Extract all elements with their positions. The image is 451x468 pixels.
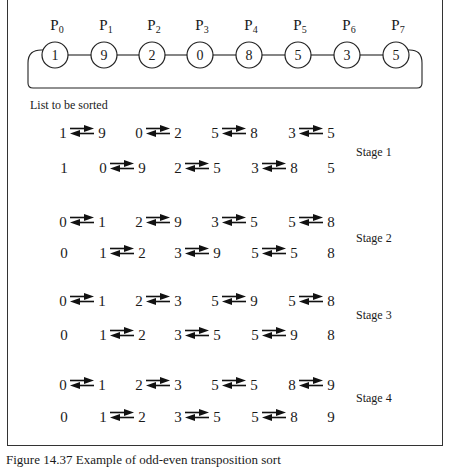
element-value: 2 (135, 377, 143, 394)
element-value: 5 (327, 160, 335, 177)
compare-exchange-arrows-icon (221, 212, 247, 230)
stage-label: Stage 4 (356, 391, 392, 406)
element-value: 9 (327, 409, 335, 426)
element-value: 2 (174, 125, 182, 142)
compare-exchange-arrows-icon (261, 325, 287, 343)
compare-exchange-arrows-icon (184, 325, 210, 343)
element-value: 8 (327, 327, 335, 344)
element-value: 8 (290, 409, 298, 426)
element-value: 2 (135, 214, 143, 231)
element-value: 5 (211, 125, 219, 142)
element-value: 5 (213, 409, 221, 426)
processor-label: P1 (99, 17, 112, 35)
element-value: 1 (98, 214, 106, 231)
compare-exchange-arrows-icon (261, 243, 287, 261)
processor-label: P0 (50, 17, 63, 35)
element-value: 3 (174, 409, 182, 426)
compare-exchange-arrows-icon (109, 243, 135, 261)
element-value: 1 (60, 160, 68, 177)
element-value: 3 (251, 160, 259, 177)
node-value: 5 (393, 48, 400, 63)
compare-exchange-arrows-icon (298, 375, 324, 393)
stage-label: Stage 3 (356, 308, 392, 323)
compare-exchange-arrows-icon (109, 407, 135, 425)
element-value: 3 (174, 293, 182, 310)
element-value: 2 (174, 160, 182, 177)
element-value: 1 (59, 125, 67, 142)
compare-exchange-arrows-icon (145, 212, 171, 230)
element-value: 1 (99, 327, 107, 344)
element-value: 1 (98, 377, 106, 394)
element-value: 9 (290, 327, 298, 344)
compare-exchange-arrows-icon (145, 123, 171, 141)
node-value: 9 (101, 48, 108, 63)
compare-exchange-arrows-icon (69, 375, 95, 393)
processor-label: P2 (147, 17, 160, 35)
node-value: 0 (197, 48, 204, 63)
element-value: 9 (250, 293, 258, 310)
element-value: 0 (59, 293, 67, 310)
node-value: 5 (295, 48, 302, 63)
compare-exchange-arrows-icon (221, 375, 247, 393)
compare-exchange-arrows-icon (298, 291, 324, 309)
element-value: 9 (138, 160, 146, 177)
element-value: 3 (174, 327, 182, 344)
element-value: 3 (211, 214, 219, 231)
element-value: 8 (327, 245, 335, 262)
node-value: 2 (149, 48, 156, 63)
element-value: 5 (251, 327, 259, 344)
element-value: 5 (211, 293, 219, 310)
element-value: 0 (135, 125, 143, 142)
ring-network-svg: 19208535 (0, 0, 451, 100)
element-value: 5 (251, 409, 259, 426)
element-value: 8 (327, 293, 335, 310)
list-caption: List to be sorted (30, 98, 108, 113)
compare-exchange-arrows-icon (184, 407, 210, 425)
element-value: 0 (60, 245, 68, 262)
element-value: 5 (288, 214, 296, 231)
element-value: 8 (250, 125, 258, 142)
compare-exchange-arrows-icon (69, 291, 95, 309)
element-value: 8 (290, 160, 298, 177)
compare-exchange-arrows-icon (261, 158, 287, 176)
element-value: 0 (59, 214, 67, 231)
element-value: 2 (138, 409, 146, 426)
element-value: 0 (60, 409, 68, 426)
element-value: 3 (288, 125, 296, 142)
stage-label: Stage 1 (356, 145, 392, 160)
element-value: 1 (98, 293, 106, 310)
compare-exchange-arrows-icon (221, 123, 247, 141)
figure-caption: Figure 14.37 Example of odd-even transpo… (6, 452, 281, 468)
compare-exchange-arrows-icon (298, 212, 324, 230)
compare-exchange-arrows-icon (261, 407, 287, 425)
compare-exchange-arrows-icon (69, 123, 95, 141)
compare-exchange-arrows-icon (221, 291, 247, 309)
compare-exchange-arrows-icon (69, 212, 95, 230)
compare-exchange-arrows-icon (109, 158, 135, 176)
processor-label: P5 (293, 17, 306, 35)
element-value: 5 (213, 327, 221, 344)
element-value: 1 (99, 245, 107, 262)
element-value: 8 (288, 377, 296, 394)
element-value: 5 (213, 160, 221, 177)
processor-label: P6 (342, 17, 355, 35)
stage-label: Stage 2 (356, 231, 392, 246)
element-value: 5 (290, 245, 298, 262)
wraparound-link (28, 50, 422, 88)
element-value: 5 (251, 245, 259, 262)
element-value: 5 (250, 377, 258, 394)
compare-exchange-arrows-icon (184, 158, 210, 176)
compare-exchange-arrows-icon (109, 325, 135, 343)
element-value: 5 (327, 125, 335, 142)
element-value: 8 (327, 214, 335, 231)
processor-label: P4 (244, 17, 257, 35)
element-value: 2 (135, 293, 143, 310)
element-value: 5 (211, 377, 219, 394)
compare-exchange-arrows-icon (298, 123, 324, 141)
element-value: 0 (99, 160, 107, 177)
element-value: 9 (174, 214, 182, 231)
element-value: 3 (174, 245, 182, 262)
node-value: 3 (344, 48, 351, 63)
processor-label: P3 (195, 17, 208, 35)
element-value: 9 (327, 377, 335, 394)
